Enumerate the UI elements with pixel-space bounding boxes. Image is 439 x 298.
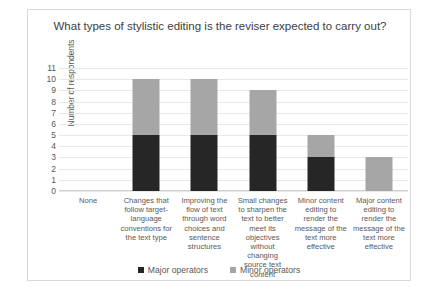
plot-area: 01234567891011: [59, 68, 408, 191]
legend-item[interactable]: Major operators: [138, 265, 208, 275]
bar-slot: [234, 68, 292, 191]
legend-swatch-icon: [138, 267, 144, 273]
x-axis-category-label: Improving the flow of text through word …: [178, 196, 230, 251]
bar-segment-minor-operators[interactable]: [307, 135, 334, 157]
bar-segment-major-operators[interactable]: [191, 135, 218, 191]
bar-segment-minor-operators[interactable]: [365, 157, 392, 191]
legend-label: Major operators: [148, 265, 208, 275]
y-axis-tick-label: 1: [51, 176, 56, 185]
y-axis-tick-label: 7: [51, 108, 56, 117]
legend-item[interactable]: Minor operators: [230, 265, 300, 275]
stacked-bar[interactable]: [365, 157, 392, 191]
y-axis-tick-label: 3: [51, 153, 56, 162]
stacked-bar[interactable]: [249, 90, 276, 191]
y-axis-tick-label: 11: [47, 64, 56, 73]
chart-legend: Major operatorsMinor operators: [28, 265, 410, 275]
bar-segment-minor-operators[interactable]: [133, 79, 160, 135]
y-axis-tick-label: 0: [51, 187, 56, 196]
stacked-bar[interactable]: [191, 79, 218, 191]
bar-slot: [117, 68, 175, 191]
bar-slot: [59, 68, 117, 191]
stacked-bar[interactable]: [307, 135, 334, 191]
legend-swatch-icon: [230, 267, 236, 273]
y-axis-tick-label: 8: [51, 97, 56, 106]
legend-label: Minor operators: [240, 265, 300, 275]
y-axis-tick-label: 4: [51, 142, 56, 151]
bar-segment-minor-operators[interactable]: [191, 79, 218, 135]
y-axis-tick-label: 9: [51, 86, 56, 95]
x-axis-category-label: Minor content editing to render the mess…: [295, 196, 347, 251]
bar-segment-minor-operators[interactable]: [249, 90, 276, 135]
bar-slot: [175, 68, 233, 191]
y-axis-tick-label: 2: [51, 164, 56, 173]
y-axis-tick-label: 5: [51, 131, 56, 140]
x-axis-category-label: Changes that follow target-language conv…: [120, 196, 172, 242]
chart-container: What types of stylistic editing is the r…: [27, 9, 411, 281]
bar-segment-major-operators[interactable]: [307, 157, 334, 191]
bar-slot: [350, 68, 408, 191]
bar-segment-major-operators[interactable]: [133, 135, 160, 191]
bar-segment-major-operators[interactable]: [249, 135, 276, 191]
y-axis-tick-label: 6: [51, 120, 56, 129]
x-axis-category-label: Major content editing to render the mess…: [353, 196, 405, 251]
stacked-bar[interactable]: [133, 79, 160, 191]
chart-title: What types of stylistic editing is the r…: [42, 19, 398, 34]
gridline: [59, 191, 408, 192]
x-axis-category-label: None: [61, 196, 115, 205]
bar-slot: [292, 68, 350, 191]
y-axis-tick-label: 10: [47, 75, 56, 84]
